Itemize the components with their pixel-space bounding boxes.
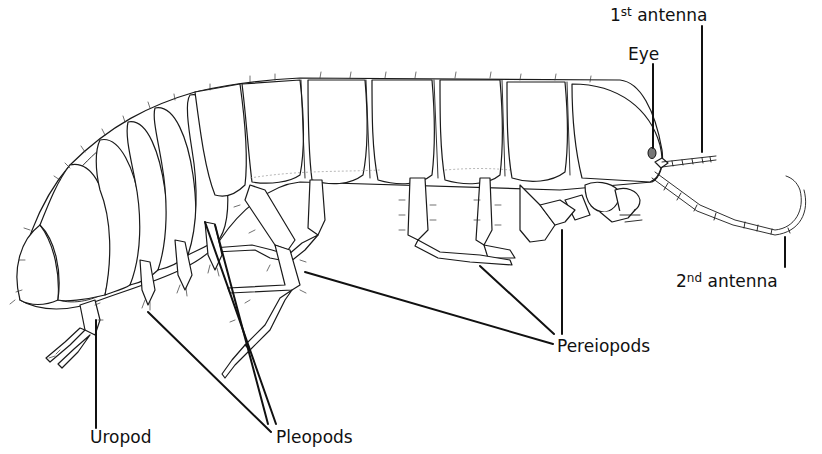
label-pereiopods: Pereiopods	[557, 336, 650, 356]
label-pleopods: Pleopods	[276, 427, 353, 447]
first-antenna	[655, 156, 716, 168]
second-antenna	[652, 172, 806, 235]
amphipod-body	[10, 72, 806, 378]
label-eye: Eye	[628, 44, 659, 64]
eye-icon	[648, 148, 656, 159]
leader-pereiopods-2	[480, 266, 554, 334]
label-first-antenna: 1st antenna	[610, 5, 707, 25]
amphipod-diagram: 1st antenna Eye 2nd antenna Pereiopods U…	[0, 0, 822, 454]
head	[572, 84, 662, 182]
leader-pereiopods-1	[305, 272, 553, 344]
pereiopods-legs	[213, 178, 575, 378]
leader-pleopods-1	[148, 312, 271, 432]
label-second-antenna: 2nd antenna	[676, 271, 778, 291]
label-uropod: Uropod	[90, 427, 151, 447]
leader-pleopods-3	[215, 225, 268, 424]
